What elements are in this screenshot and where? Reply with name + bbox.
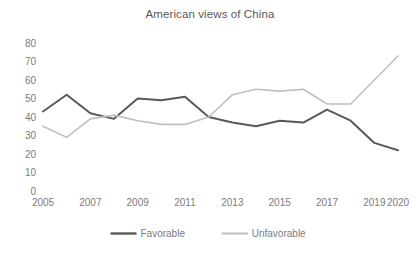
x-tick-label: 2013 [221, 197, 244, 208]
y-tick-label: 0 [30, 186, 36, 197]
x-tick-label: 2005 [32, 197, 55, 208]
y-tick-label: 40 [25, 112, 37, 123]
y-tick-label: 10 [25, 167, 37, 178]
y-tick-label: 70 [25, 56, 37, 67]
chart-container: American views of China 0102030405060708… [0, 0, 420, 255]
legend-label-unfavorable: Unfavorable [252, 228, 306, 239]
x-tick-label: 2011 [174, 197, 196, 208]
y-tick-label: 20 [25, 149, 37, 160]
x-tick-label: 2020 [387, 197, 410, 208]
x-tick-label: 2007 [79, 197, 102, 208]
y-tick-label: 60 [25, 75, 37, 86]
y-tick-label: 50 [25, 93, 37, 104]
y-tick-label: 30 [25, 130, 37, 141]
series-line-favorable [43, 95, 398, 151]
x-axis-tick-labels: 200520072009201120132015201720192020 [32, 197, 410, 208]
x-tick-label: 2019 [363, 197, 386, 208]
chart-plot: 01020304050607080 2005200720092011201320… [0, 0, 420, 255]
x-tick-label: 2009 [127, 197, 150, 208]
legend-label-favorable: Favorable [141, 228, 186, 239]
series-lines [43, 56, 398, 150]
x-tick-label: 2015 [269, 197, 292, 208]
series-line-unfavorable [43, 56, 398, 137]
chart-legend: FavorableUnfavorable [111, 228, 307, 239]
x-tick-label: 2017 [316, 197, 339, 208]
y-axis-tick-labels: 01020304050607080 [25, 38, 37, 197]
y-tick-label: 80 [25, 38, 37, 49]
